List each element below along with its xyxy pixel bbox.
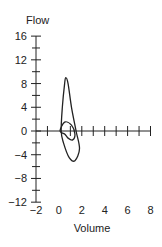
x-tick-label: 2 — [79, 204, 85, 216]
y-tick-label: −12 — [8, 196, 27, 208]
tick-labels: 1612840−4−8−12−202468 — [8, 30, 153, 216]
y-tick-label: 16 — [15, 30, 27, 42]
x-tick-label: 6 — [125, 204, 131, 216]
y-tick-label: −8 — [14, 172, 27, 184]
contour-curves — [60, 78, 79, 162]
y-tick-label: 0 — [21, 125, 27, 137]
y-tick-label: 12 — [15, 54, 27, 66]
outer-contour — [61, 78, 79, 162]
x-tick-label: 0 — [56, 204, 62, 216]
x-tick-label: 8 — [147, 204, 153, 216]
x-tick-label: −2 — [30, 204, 43, 216]
x-tick-label: 4 — [102, 204, 108, 216]
y-axis-label: Flow — [26, 14, 49, 26]
y-tick-label: −4 — [14, 149, 27, 161]
y-tick-label: 8 — [21, 78, 27, 90]
chart-svg: 1612840−4−8−12−202468 Flow Volume — [0, 0, 162, 247]
y-tick-label: 4 — [21, 101, 27, 113]
axes — [31, 36, 151, 202]
flow-volume-chart: 1612840−4−8−12−202468 Flow Volume — [0, 0, 162, 247]
x-axis-label: Volume — [74, 222, 111, 234]
